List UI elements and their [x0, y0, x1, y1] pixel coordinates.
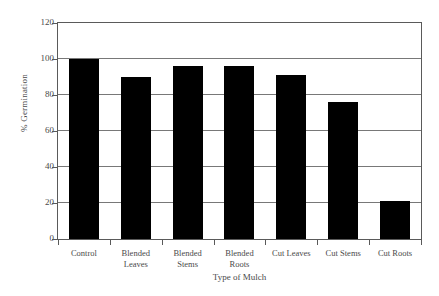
x-tick-label-line: Cut Stems — [317, 248, 369, 259]
x-tick-label: Cut Stems — [317, 248, 369, 259]
bar[interactable] — [276, 75, 306, 239]
bar[interactable] — [328, 102, 358, 239]
x-tick-mark — [58, 240, 59, 245]
bar-slot — [369, 23, 421, 239]
x-tick-label: BlendedLeaves — [110, 248, 162, 270]
x-tick-mark — [110, 240, 111, 245]
x-tick-label: Cut Roots — [369, 248, 421, 259]
x-tick-label: BlendedStems — [162, 248, 214, 270]
x-tick-label: Control — [58, 248, 110, 259]
x-tick-label-line: Blended — [110, 248, 162, 259]
bar-slot — [110, 23, 162, 239]
bar-slot — [265, 23, 317, 239]
x-tick-mark — [265, 240, 266, 245]
x-tick-label: Cut Leaves — [265, 248, 317, 259]
y-tick-label: 20 — [24, 197, 54, 207]
x-tick-mark — [421, 240, 422, 245]
x-tick-label-line: Blended — [162, 248, 214, 259]
x-tick-label-line: Cut Roots — [369, 248, 421, 259]
bar[interactable] — [69, 59, 99, 239]
x-tick-mark — [369, 240, 370, 245]
y-tick-label: 40 — [24, 161, 54, 171]
bar-slot — [317, 23, 369, 239]
bar[interactable] — [380, 201, 410, 239]
x-tick-label-line: Roots — [214, 259, 266, 270]
x-tick-label: BlendedRoots — [214, 248, 266, 270]
bar-slot — [214, 23, 266, 239]
x-tick-label-line: Stems — [162, 259, 214, 270]
bar[interactable] — [173, 66, 203, 239]
bar[interactable] — [121, 77, 151, 239]
bar-slot — [58, 23, 110, 239]
bar-slot — [162, 23, 214, 239]
y-tick-label: 80 — [24, 89, 54, 99]
x-tick-mark — [214, 240, 215, 245]
bar-chart: % Germination 020406080100120 ControlBle… — [0, 0, 439, 296]
x-tick-label-line: Blended — [214, 248, 266, 259]
y-tick-label: 100 — [24, 53, 54, 63]
bars-layer — [58, 23, 421, 239]
x-tick-label-line: Cut Leaves — [265, 248, 317, 259]
x-tick-label-line: Control — [58, 248, 110, 259]
y-tick-label: 60 — [24, 125, 54, 135]
x-tick-mark — [162, 240, 163, 245]
x-axis-title: Type of Mulch — [57, 272, 422, 282]
y-tick-label: 0 — [24, 233, 54, 243]
x-tick-label-line: Leaves — [110, 259, 162, 270]
bar[interactable] — [224, 66, 254, 239]
x-tick-mark — [317, 240, 318, 245]
y-tick-label: 120 — [24, 17, 54, 27]
